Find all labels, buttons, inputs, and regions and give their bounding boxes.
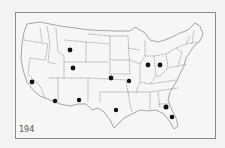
marker-kansas bbox=[109, 76, 114, 81]
marker-new-mexico bbox=[77, 98, 81, 102]
marker-california bbox=[30, 80, 35, 85]
page-number-label: 194 bbox=[19, 125, 34, 134]
marker-wyoming bbox=[68, 48, 73, 53]
marker-utah bbox=[71, 66, 76, 71]
marker-florida bbox=[170, 115, 175, 120]
state-borders bbox=[21, 22, 203, 129]
marker-arizona bbox=[53, 99, 57, 103]
marker-missouri bbox=[127, 79, 131, 83]
marker-texas bbox=[114, 108, 118, 112]
marker-ohio bbox=[158, 63, 163, 68]
marker-georgia bbox=[164, 105, 169, 110]
marker-indiana bbox=[146, 63, 151, 68]
